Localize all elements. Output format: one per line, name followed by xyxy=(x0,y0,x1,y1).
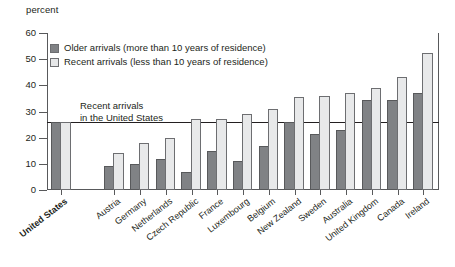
bar-recent-belgium xyxy=(268,109,278,190)
x-axis-label-united-states: United States xyxy=(18,196,69,239)
y-tick-label-50: 50 xyxy=(0,53,36,64)
bar-group xyxy=(362,33,383,190)
bar-group xyxy=(413,33,434,190)
bar-recent-ireland xyxy=(422,53,432,190)
bar-group xyxy=(207,33,228,190)
bar-recent-czech-republic xyxy=(191,119,201,190)
y-tick-0 xyxy=(39,190,47,191)
bar-group xyxy=(336,33,357,190)
bar-group xyxy=(156,33,177,190)
bar-recent-new-zealand xyxy=(294,97,304,190)
x-tick-0 xyxy=(61,190,62,195)
x-tick-13 xyxy=(423,190,424,195)
y-tick-label-60: 60 xyxy=(0,27,36,38)
bar-recent-united-states xyxy=(60,122,70,190)
y-tick-40 xyxy=(39,85,47,86)
bar-group xyxy=(284,33,305,190)
y-tick-label-20: 20 xyxy=(0,132,36,143)
y-tick-60 xyxy=(39,33,47,34)
bar-recent-austria xyxy=(113,153,123,190)
bar-recent-sweden xyxy=(319,96,329,190)
x-tick-3 xyxy=(166,190,167,195)
x-axis-label-canada: Canada xyxy=(375,196,406,223)
y-tick-50 xyxy=(39,59,47,60)
x-tick-6 xyxy=(243,190,244,195)
x-tick-10 xyxy=(346,190,347,195)
bar-group xyxy=(233,33,254,190)
bar-group xyxy=(104,33,125,190)
bar-group xyxy=(310,33,331,190)
bar-recent-france xyxy=(216,119,226,190)
bar-recent-netherlands xyxy=(165,138,175,190)
bar-group xyxy=(259,33,280,190)
y-tick-10 xyxy=(39,164,47,165)
bar-recent-australia xyxy=(345,93,355,190)
x-tick-2 xyxy=(140,190,141,195)
x-tick-5 xyxy=(217,190,218,195)
chart-container: percent 0102030405060 Recent arrivals in… xyxy=(0,0,455,267)
x-axis-label-ireland: Ireland xyxy=(404,196,432,221)
y-tick-label-30: 30 xyxy=(0,106,36,117)
bar-recent-united-kingdom xyxy=(371,88,381,190)
x-tick-4 xyxy=(192,190,193,195)
bar-group xyxy=(387,33,408,190)
plot-right-border xyxy=(438,33,439,190)
x-tick-8 xyxy=(295,190,296,195)
x-tick-11 xyxy=(372,190,373,195)
y-tick-label-10: 10 xyxy=(0,158,36,169)
y-tick-label-0: 0 xyxy=(0,184,36,195)
y-axis-title: percent xyxy=(26,4,58,15)
x-tick-12 xyxy=(398,190,399,195)
y-tick-20 xyxy=(39,138,47,139)
y-tick-label-40: 40 xyxy=(0,79,36,90)
y-tick-30 xyxy=(39,112,47,113)
bars-layer xyxy=(48,33,438,190)
x-tick-1 xyxy=(114,190,115,195)
x-tick-7 xyxy=(269,190,270,195)
bar-group xyxy=(51,33,72,190)
bar-group xyxy=(181,33,202,190)
bar-recent-germany xyxy=(139,143,149,190)
bar-recent-canada xyxy=(397,77,407,190)
bar-recent-luxembourg xyxy=(242,114,252,190)
x-tick-9 xyxy=(320,190,321,195)
bar-group xyxy=(130,33,151,190)
